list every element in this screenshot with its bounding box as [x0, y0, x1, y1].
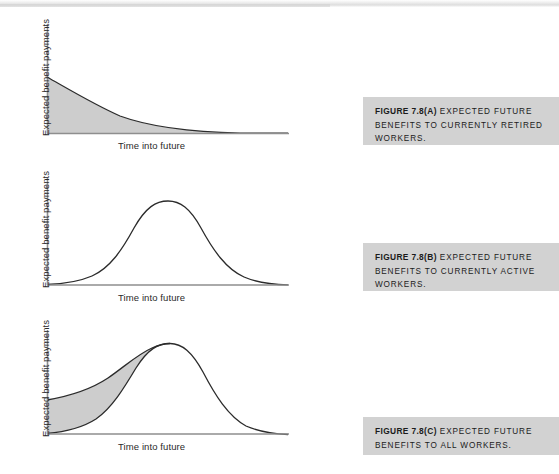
- area-fill-between-active-and-total: [47, 344, 170, 434]
- curve-active-benefits: [47, 201, 288, 285]
- figure-panel-c: Expected benefit payments Time into futu…: [0, 322, 300, 474]
- area-fill-retired: [47, 77, 288, 133]
- caption-box-a: FIGURE 7.8(A) EXPECTED FUTURE BENEFITS T…: [363, 97, 559, 145]
- caption-a-head: FIGURE 7.8(A): [375, 106, 437, 116]
- y-axis-label-c: Expected benefit payments: [40, 320, 51, 437]
- caption-box-c: FIGURE 7.8(C) EXPECTED FUTURE BENEFITS T…: [363, 417, 559, 455]
- caption-b-head: FIGURE 7.8(B): [375, 252, 437, 262]
- y-axis-label-a: Expected benefit payments: [40, 19, 51, 136]
- figure-panel-b: Expected benefit payments Time into futu…: [0, 170, 300, 310]
- scan-artifact-band-secondary: [0, 4, 330, 7]
- x-axis-label-c: Time into future: [118, 441, 185, 452]
- y-axis-label-b: Expected benefit payments: [40, 171, 51, 288]
- x-axis-label-b: Time into future: [118, 292, 185, 303]
- caption-c-head: FIGURE 7.8(C): [375, 426, 437, 436]
- figure-panel-a: Expected benefit payments Time into futu…: [0, 10, 300, 165]
- x-axis-label-a: Time into future: [118, 140, 185, 151]
- caption-box-b: FIGURE 7.8(B) EXPECTED FUTURE BENEFITS T…: [363, 243, 559, 291]
